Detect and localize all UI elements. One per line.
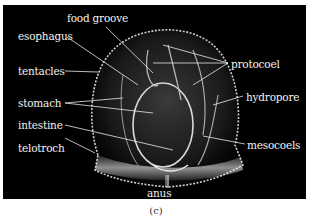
figure-caption: (c) <box>0 205 312 216</box>
label-stomach: stomach <box>18 97 61 109</box>
label-esophagus: esophagus <box>18 30 73 42</box>
label-food-groove: food groove <box>67 12 128 24</box>
label-protocoel: protocoel <box>231 58 280 70</box>
label-telotroch: telotroch <box>18 142 65 154</box>
label-tentacles: tentacles <box>18 65 65 77</box>
label-intestine: intestine <box>18 119 63 131</box>
specimen-image-panel: food groove esophagus tentacles stomach … <box>3 5 306 199</box>
label-mesocoels: mesocoels <box>247 139 300 151</box>
label-hydropore: hydropore <box>246 91 299 103</box>
label-anus: anus <box>147 187 171 199</box>
